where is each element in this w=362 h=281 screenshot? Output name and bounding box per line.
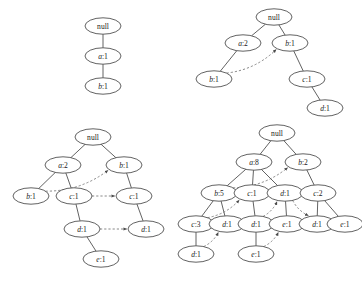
tree-edge — [221, 201, 225, 216]
node-label: e:1 — [96, 255, 105, 264]
node-label: e:1 — [251, 250, 260, 259]
tree-edge — [101, 144, 116, 157]
node-label: a:2 — [238, 39, 248, 48]
tree-node[interactable]: d:1 — [307, 100, 343, 116]
node-label: d:1 — [222, 220, 232, 229]
node-label: c:1 — [129, 192, 138, 201]
node-link-arrow — [263, 202, 277, 217]
node-label: b:1 — [98, 82, 108, 91]
tree-edge — [325, 201, 339, 217]
node-label: c:3 — [191, 220, 200, 229]
tree-edge — [261, 169, 277, 185]
tree-nodes-layer: nulla:1b:1nulla:2b:1b:1c:1d:1nulla:2b:1b… — [13, 9, 362, 267]
tree-node[interactable]: null — [256, 9, 292, 25]
node-label: b:5 — [214, 189, 224, 198]
tree-edge — [284, 141, 296, 155]
tree-node[interactable]: b:1 — [196, 71, 232, 87]
node-label: null — [97, 22, 109, 31]
node-label: c:1 — [69, 192, 78, 201]
tree-edge — [127, 173, 132, 188]
tree-edge — [202, 201, 213, 216]
node-label: d:1 — [320, 104, 330, 113]
tree-edge — [39, 172, 56, 188]
tree-edge — [252, 24, 266, 36]
tree-node[interactable]: null — [85, 18, 121, 34]
tree-node[interactable]: a:8 — [236, 154, 272, 170]
tree-edge — [253, 170, 254, 185]
tree-edge — [66, 173, 71, 188]
tree-edge — [76, 204, 80, 221]
fp-tree-figure: nulla:1b:1nulla:2b:1b:1c:1d:1nulla:2b:1b… — [0, 0, 362, 281]
tree-edge — [87, 237, 96, 251]
tree-node[interactable]: d:1 — [128, 221, 164, 237]
node-label: a:1 — [98, 52, 108, 61]
node-link-arrow — [226, 50, 276, 74]
node-label: d:1 — [191, 250, 201, 259]
node-label: null — [268, 13, 280, 22]
node-label: a:2 — [58, 161, 68, 170]
tree-edge — [137, 204, 143, 221]
tree-edge — [227, 169, 246, 185]
tree-edge — [220, 51, 237, 72]
node-label: d:1 — [141, 225, 151, 234]
tree-node[interactable]: c:1 — [289, 71, 325, 87]
tree-edge — [253, 201, 255, 216]
tree-edge — [260, 141, 271, 155]
tree-node[interactable]: d:1 — [64, 221, 100, 237]
tree-edge — [286, 201, 287, 216]
tree-node[interactable]: b:1 — [85, 78, 121, 94]
node-label: d:1 — [251, 220, 261, 229]
node-label: c:2 — [313, 189, 322, 198]
node-label: b:1 — [209, 75, 219, 84]
fp-tree-canvas: nulla:1b:1nulla:2b:1b:1c:1d:1nulla:2b:1b… — [0, 0, 362, 281]
node-label: c:1 — [247, 189, 256, 198]
tree-node[interactable]: b:1 — [106, 157, 142, 173]
tree-node[interactable]: d:1 — [267, 185, 303, 201]
tree-node[interactable]: c:1 — [56, 188, 92, 204]
tree-edge — [71, 144, 85, 157]
node-label: b:1 — [285, 39, 295, 48]
node-label: d:1 — [280, 189, 290, 198]
tree-node[interactable]: b:2 — [285, 154, 321, 170]
tree-edge — [307, 170, 314, 185]
node-label: b:1 — [119, 161, 129, 170]
tree-node[interactable]: a:1 — [85, 48, 121, 64]
tree-edge — [279, 25, 285, 35]
node-label: null — [87, 133, 99, 142]
node-link-arrow — [293, 200, 309, 215]
node-label: e:1 — [282, 220, 291, 229]
node-label: d:1 — [77, 225, 87, 234]
tree-node[interactable]: e:1 — [83, 251, 119, 267]
tree-node[interactable]: e:1 — [327, 216, 362, 232]
tree-node[interactable]: b:5 — [201, 185, 237, 201]
tree-node[interactable]: d:1 — [178, 246, 214, 262]
node-label: b:2 — [298, 158, 308, 167]
tree-node[interactable]: b:1 — [272, 35, 308, 51]
tree-node[interactable]: c:1 — [234, 185, 270, 201]
tree-node[interactable]: b:1 — [13, 188, 49, 204]
tree-node[interactable]: a:2 — [225, 35, 261, 51]
tree-node[interactable]: c:1 — [116, 188, 152, 204]
node-link-arrow — [204, 232, 219, 246]
node-label: c:1 — [302, 75, 311, 84]
tree-edge — [294, 51, 303, 71]
node-label: null — [271, 129, 283, 138]
node-link-arrow — [264, 232, 279, 246]
node-label: a:8 — [249, 158, 259, 167]
node-label: e:1 — [340, 220, 349, 229]
tree-node[interactable]: a:2 — [45, 157, 81, 173]
tree-edge — [312, 87, 320, 100]
tree-node[interactable]: c:2 — [300, 185, 336, 201]
node-label: b:1 — [26, 192, 36, 201]
tree-node[interactable]: null — [259, 125, 295, 141]
tree-node[interactable]: e:1 — [238, 246, 274, 262]
node-label: d:1 — [312, 220, 322, 229]
tree-node[interactable]: null — [75, 129, 111, 145]
